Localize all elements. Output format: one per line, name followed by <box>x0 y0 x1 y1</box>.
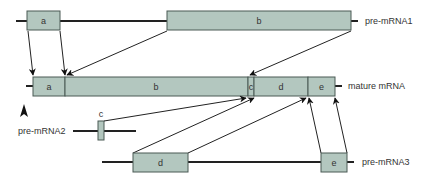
pre-mrna3: d e pre-mRNA3 <box>102 153 410 172</box>
pre-mrna3-label: pre-mRNA3 <box>362 157 410 167</box>
pre-mrna2-exon-c <box>98 121 104 140</box>
pre-mrna3-exon-d-label: d <box>158 158 163 168</box>
pre-mrna1-label: pre-mRNA1 <box>365 16 413 26</box>
mature-exon-c-label: c <box>249 82 254 92</box>
trans-splicing-diagram: a b pre-mRNA1 a b c d e mature mRNA pre-… <box>0 0 431 183</box>
pre-mrna1: a b pre-mRNA1 <box>16 11 413 30</box>
arrow-c-start <box>104 98 246 121</box>
mature-exon-b-label: b <box>153 82 158 92</box>
arrow-e-start <box>309 98 321 153</box>
splice-arrows-1 <box>28 31 351 75</box>
arrowhead-up-icon <box>20 104 28 117</box>
pre-mrna1-exon-a-label: a <box>41 16 46 26</box>
mature-exon-e-label: e <box>319 82 324 92</box>
arrow-b-start <box>67 31 167 75</box>
arrow-b-end <box>250 31 351 75</box>
mature-exon-d-label: d <box>278 82 283 92</box>
splice-arrows-2-3 <box>104 98 347 153</box>
mature-mrna-label: mature mRNA <box>348 81 405 91</box>
pre-mrna3-exon-e-label: e <box>331 158 336 168</box>
arrow-a-start <box>28 31 33 75</box>
pre-mrna2-exon-c-label: c <box>99 109 104 119</box>
mature-mrna: a b c d e mature mRNA <box>26 77 405 96</box>
pre-mrna1-exon-b-label: b <box>256 16 261 26</box>
arrow-a-end <box>60 31 65 75</box>
arrow-e-end <box>335 98 347 153</box>
pre-mrna2-label: pre-mRNA2 <box>18 126 66 136</box>
mature-exon-a-label: a <box>46 82 51 92</box>
pre-mrna2: pre-mRNA2 c <box>18 109 136 140</box>
arrow-d-end <box>188 98 306 153</box>
